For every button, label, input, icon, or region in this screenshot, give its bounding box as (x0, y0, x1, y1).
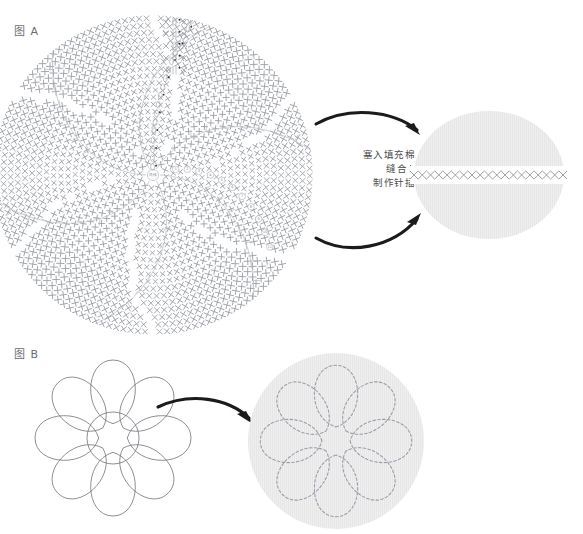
round-number-label: 5 (221, 178, 223, 182)
round-number-label: 7 (241, 194, 243, 198)
flower-petal (120, 445, 174, 499)
slip-stitch-dot (163, 94, 165, 96)
round-number-label: 2 (186, 167, 188, 171)
slip-stitch-dot (179, 31, 181, 33)
slip-stitch-dot (190, 26, 192, 28)
arrow-a-top (316, 113, 420, 135)
figure-a-result-circle (410, 111, 568, 239)
chain-stitch (169, 58, 174, 65)
chain-stitch (150, 155, 154, 162)
chain-stitch (160, 83, 165, 90)
flower-petal (35, 416, 99, 461)
flower-petal (52, 445, 106, 499)
slip-stitch-dot (156, 129, 158, 131)
center-ring-label: 绕线 (149, 172, 157, 177)
round-number-label: 11 (267, 245, 272, 249)
slip-stitch-dot (179, 55, 181, 57)
flower-petal (52, 377, 106, 431)
flower-core-circle (87, 412, 139, 464)
arrow-b (158, 399, 253, 424)
slip-stitch-dot (179, 67, 181, 69)
flower-petal (91, 360, 136, 424)
chain-stitch (163, 75, 168, 82)
slip-stitch-dot (179, 43, 181, 45)
round-number-label: 3 (198, 169, 200, 173)
cushion-fabric-circle (248, 353, 424, 529)
chain-stitch (190, 16, 196, 24)
figure-a-crochet-chart: 绕线1234567891011 (0, 8, 320, 341)
flower-petal (127, 416, 191, 461)
slip-stitch-dot (155, 165, 157, 167)
slip-stitch-dot (159, 111, 161, 113)
figure-b-flower-outline (35, 360, 191, 516)
arrow-a-bottom (316, 213, 421, 248)
slip-stitch-dot (168, 76, 170, 78)
figure-b-result-circle (248, 353, 424, 529)
round-number-label: 1 (175, 167, 177, 171)
slip-stitch-dot (155, 147, 157, 149)
slip-stitch-dot (179, 19, 181, 21)
flower-petal (91, 452, 136, 516)
diagram-canvas: 图 A 图 B 塞入填充棉 缝合 制作针插 绕线1234567891011 (0, 0, 583, 534)
round-number-label: 10 (263, 230, 268, 234)
vector-art-layer: 绕线1234567891011 (0, 0, 583, 534)
